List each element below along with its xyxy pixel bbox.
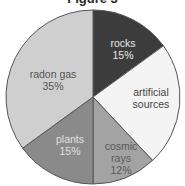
- label-plants-pct: 15%: [45, 145, 95, 157]
- label-cosmic-pct: 12%: [96, 164, 146, 176]
- label-rocks-name: rocks: [98, 37, 148, 49]
- label-artificial: artificial sources: [120, 86, 182, 110]
- label-plants: plants 15%: [45, 133, 95, 157]
- label-radon-name: radon gas: [18, 68, 88, 80]
- label-cosmic-line2: rays: [96, 152, 146, 164]
- label-cosmic-line1: cosmic: [96, 140, 146, 152]
- label-plants-name: plants: [45, 133, 95, 145]
- label-radon-pct: 35%: [18, 80, 88, 92]
- label-cosmic: cosmic rays 12%: [96, 140, 146, 176]
- label-radon: radon gas 35%: [18, 68, 88, 92]
- label-artificial-line1: artificial: [120, 86, 182, 98]
- label-rocks: rocks 15%: [98, 37, 148, 61]
- label-artificial-line2: sources: [120, 98, 182, 110]
- label-rocks-pct: 15%: [98, 49, 148, 61]
